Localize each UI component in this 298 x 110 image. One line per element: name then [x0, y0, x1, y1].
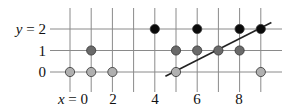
y-label-0: 0	[39, 64, 47, 80]
grid-lines	[50, 8, 282, 92]
point-dark-x5-y1	[171, 46, 180, 55]
x-label-4: 4	[151, 91, 159, 107]
point-black-x6-y2	[193, 24, 202, 33]
point-light-x9-y0	[256, 67, 265, 76]
point-black-x8-y2	[235, 24, 244, 33]
point-light-x1-y0	[87, 67, 96, 76]
lattice-diagram: y = 2 1 0 x = 0 2 4 6 8	[0, 0, 298, 110]
point-black-x4-y2	[150, 24, 159, 33]
point-black-x9-y2	[256, 24, 265, 33]
x-label-2: 2	[109, 91, 117, 107]
point-light-x5-y0	[171, 67, 180, 76]
y-label-2: y = 2	[14, 21, 46, 37]
point-dark-x7-y1	[214, 46, 223, 55]
point-light-x0-y0	[65, 67, 74, 76]
point-light-x2-y0	[108, 67, 117, 76]
point-dark-x1-y1	[87, 46, 96, 55]
y-label-1: 1	[39, 43, 47, 59]
x-label-6: 6	[193, 91, 201, 107]
point-dark-x8-y1	[235, 46, 244, 55]
x-axis-labels: x = 0 2 4 6 8	[57, 91, 243, 107]
x-label-8: 8	[235, 91, 243, 107]
point-dark-x6-y1	[193, 46, 202, 55]
y-axis-labels: y = 2 1 0	[14, 21, 46, 80]
x-label-0: x = 0	[57, 91, 88, 107]
